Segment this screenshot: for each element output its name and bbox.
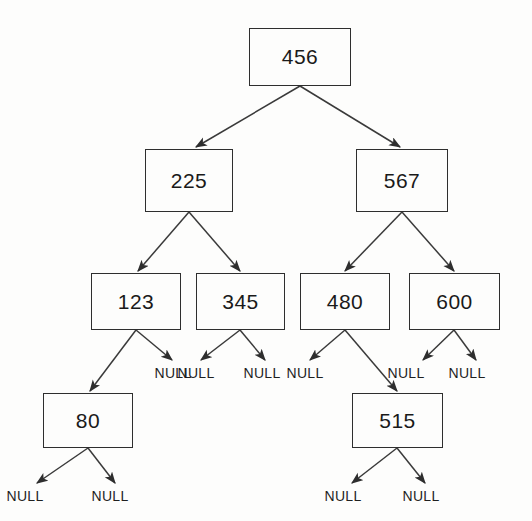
tree-edge: [310, 330, 345, 360]
tree-edge: [136, 330, 172, 360]
tree-edge: [402, 212, 454, 271]
node-value-label: 345: [222, 290, 259, 314]
null-child-label: NULL: [178, 365, 215, 381]
node-value-label: 567: [384, 169, 421, 193]
tree-edge: [189, 212, 240, 271]
tree-node-225: 225: [145, 149, 233, 212]
tree-edge: [201, 330, 240, 360]
tree-edge: [454, 330, 476, 360]
tree-edge: [240, 330, 265, 360]
tree-edge: [37, 448, 88, 483]
tree-edge: [90, 330, 136, 391]
tree-edge: [397, 448, 425, 483]
tree-edge: [88, 448, 115, 483]
tree-edge: [300, 86, 400, 147]
tree-node-80: 80: [43, 393, 133, 448]
tree-edge: [345, 212, 402, 271]
null-child-label: NULL: [244, 365, 281, 381]
null-child-label: NULL: [449, 365, 486, 381]
tree-node-600: 600: [409, 273, 500, 330]
tree-node-515: 515: [352, 393, 443, 448]
node-value-label: 515: [379, 409, 416, 433]
tree-node-567: 567: [356, 149, 448, 212]
tree-node-123: 123: [91, 273, 181, 330]
tree-edge: [352, 448, 397, 483]
tree-edge: [423, 330, 454, 360]
tree-node-345: 345: [196, 273, 285, 330]
tree-edge: [196, 86, 300, 147]
node-value-label: 456: [282, 45, 319, 69]
binary-tree-diagram: 45622556712334548060080515 NULLNULLNULLN…: [0, 0, 532, 521]
null-child-label: NULL: [403, 488, 440, 504]
null-child-label: NULL: [287, 365, 324, 381]
null-child-label: NULL: [7, 488, 44, 504]
node-value-label: 225: [171, 169, 208, 193]
tree-edge: [345, 330, 397, 391]
tree-edge: [138, 212, 189, 271]
tree-node-456: 456: [249, 28, 351, 86]
node-value-label: 600: [436, 290, 473, 314]
node-value-label: 123: [118, 290, 155, 314]
null-child-label: NULL: [325, 488, 362, 504]
node-value-label: 80: [76, 409, 100, 433]
node-value-label: 480: [327, 290, 364, 314]
null-child-label: NULL: [388, 365, 425, 381]
null-child-label: NULL: [92, 488, 129, 504]
tree-node-480: 480: [300, 273, 390, 330]
